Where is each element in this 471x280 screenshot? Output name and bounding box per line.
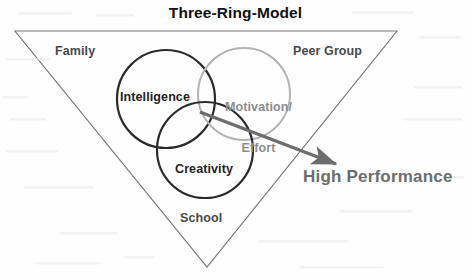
context-label-family: Family xyxy=(55,45,95,59)
outcome-label-high-performance: High Performance xyxy=(303,168,453,186)
ring-label-motivation-effort: Motivation/ Effort xyxy=(225,74,292,182)
ring-label-motivation-line1: Motivation/ xyxy=(225,101,292,115)
context-label-peer-group: Peer Group xyxy=(293,45,362,59)
ring-label-motivation-line2: Effort xyxy=(225,142,292,156)
ring-label-creativity: Creativity xyxy=(175,163,233,177)
context-label-school: School xyxy=(180,212,222,226)
three-ring-model-figure: Three-Ring-Model xyxy=(0,0,471,280)
ring-label-intelligence: Intelligence xyxy=(120,91,190,105)
